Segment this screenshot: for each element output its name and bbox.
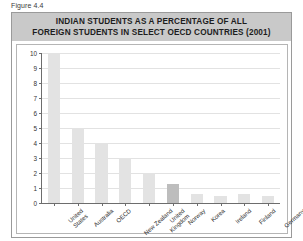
- y-tick-label: 1: [33, 185, 37, 192]
- x-tick-label: Finland: [257, 207, 277, 226]
- y-tick-label: 9: [33, 65, 37, 72]
- x-tick-label: Australia: [92, 207, 114, 228]
- x-tick-mark: [78, 203, 79, 206]
- y-tick-label: 6: [33, 110, 37, 117]
- x-tick-mark: [244, 203, 245, 206]
- bar: [95, 143, 107, 203]
- x-axis-labels: UnitedStatesAustraliaOECDNew ZealandUnit…: [41, 207, 279, 235]
- y-tick-mark: [39, 203, 42, 204]
- chart-title-line-1: INDIAN STUDENTS AS A PERCENTAGE OF ALL: [56, 16, 247, 27]
- y-tick-label: 3: [33, 155, 37, 162]
- y-tick-label: 8: [33, 80, 37, 87]
- x-tick-mark: [173, 203, 174, 206]
- x-tick-label: UnitedStates: [66, 207, 88, 229]
- x-tick-label: Germany: [283, 207, 303, 229]
- figure-caption: Figure 4.4: [11, 2, 44, 9]
- x-tick-mark: [54, 203, 55, 206]
- bar: [191, 194, 203, 203]
- bar: [214, 196, 226, 204]
- bar: [119, 158, 131, 203]
- y-tick-label: 4: [33, 140, 37, 147]
- x-tick-label: OECD: [114, 207, 132, 224]
- x-tick-mark: [125, 203, 126, 206]
- bar: [262, 196, 274, 204]
- plot-frame: 012345678910 UnitedStatesAustraliaOECDNe…: [16, 44, 288, 234]
- plot-area: 012345678910: [41, 53, 280, 204]
- bar: [167, 184, 179, 204]
- chart-title-band: INDIAN STUDENTS AS A PERCENTAGE OF ALL F…: [12, 13, 291, 41]
- bar: [48, 53, 60, 203]
- bar: [238, 194, 250, 203]
- figure-container: Figure 4.4 INDIAN STUDENTS AS A PERCENTA…: [0, 0, 303, 241]
- x-tick-mark: [221, 203, 222, 206]
- y-tick-label: 7: [33, 95, 37, 102]
- y-tick-label: 5: [33, 125, 37, 132]
- y-tick-label: 2: [33, 170, 37, 177]
- x-tick-mark: [268, 203, 269, 206]
- chart-title-line-2: FOREIGN STUDENTS IN SELECT OECD COUNTRIE…: [32, 27, 270, 38]
- x-tick-mark: [197, 203, 198, 206]
- y-tick-label: 0: [33, 200, 37, 207]
- x-tick-mark: [102, 203, 103, 206]
- bar: [72, 128, 84, 203]
- x-tick-label: Norway: [186, 207, 206, 226]
- bars-group: [42, 53, 280, 203]
- bar: [143, 173, 155, 203]
- y-tick-label: 10: [30, 50, 37, 57]
- chart-panel: INDIAN STUDENTS AS A PERCENTAGE OF ALL F…: [11, 12, 292, 238]
- x-tick-label: Korea: [209, 207, 226, 223]
- x-tick-label: Ireland: [233, 207, 252, 225]
- x-tick-mark: [149, 203, 150, 206]
